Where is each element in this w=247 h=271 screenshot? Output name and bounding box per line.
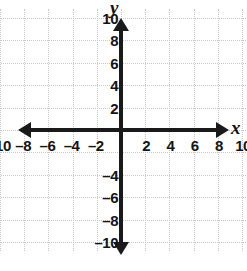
y-tick-label: 8 [110,33,118,48]
coordinate-plane: –10–8–6–4–2246810108642–4–6–8–10 x y [0,0,247,271]
gridline-horizontal [0,175,247,176]
x-axis-left-arrow-icon [18,122,31,138]
x-axis-label: x [231,118,241,137]
gridline-horizontal [0,108,247,109]
x-axis-line [27,128,220,132]
x-tick-label: 4 [166,138,174,153]
y-tick-label: 6 [110,55,118,70]
y-tick-label: –6 [102,190,118,205]
gridline-horizontal [0,40,247,41]
gridline-horizontal [0,220,247,221]
x-tick-label: –6 [40,138,56,153]
gridline-horizontal [0,152,247,153]
y-tick-label: 4 [110,78,118,93]
y-tick-label: –10 [94,235,118,250]
gridline-horizontal [0,85,247,86]
y-tick-label: 2 [110,100,118,115]
y-axis-label: y [110,0,118,17]
x-tick-label: 10 [235,138,247,153]
x-tick-label: –2 [88,138,104,153]
y-tick-label: –8 [102,212,118,227]
x-tick-label: –8 [15,138,31,153]
x-tick-label: 6 [191,138,199,153]
y-axis-line [119,27,123,246]
x-tick-label: –4 [64,138,80,153]
gridline-horizontal [0,63,247,64]
x-tick-label: –10 [0,138,11,153]
gridline-horizontal [0,197,247,198]
x-axis-right-arrow-icon [216,122,229,138]
y-tick-label: –4 [102,167,118,182]
x-tick-label: 8 [215,138,223,153]
grid [0,0,247,271]
x-tick-label: 2 [142,138,150,153]
